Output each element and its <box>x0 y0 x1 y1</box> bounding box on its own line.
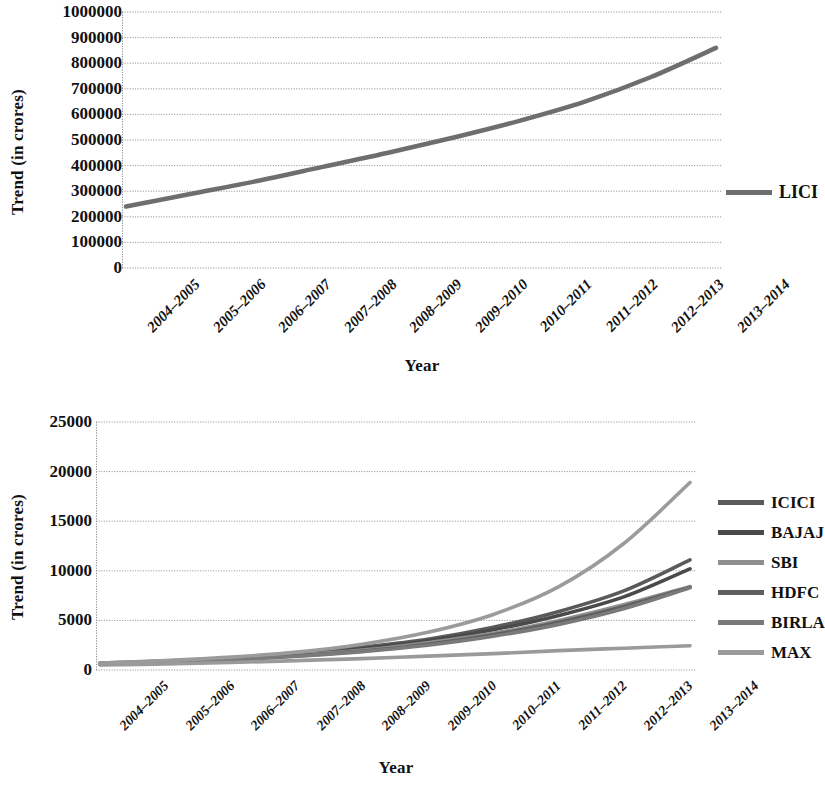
legend-label: BIRLA <box>771 614 825 631</box>
chart1-y-axis-title: Trend (in crores) <box>8 55 28 215</box>
legend-item-icici[interactable]: ICICI <box>718 495 815 509</box>
legend-item-sbi[interactable]: SBI <box>718 555 798 569</box>
y-tick-label: 700000 <box>30 79 122 99</box>
x-tick-label: 2007–2008 <box>340 276 400 336</box>
x-tick-label: 2012–2013 <box>668 276 728 336</box>
x-tick-label: 2004–2005 <box>116 678 172 734</box>
legend-item-bajaj[interactable]: BAJAJ <box>718 525 824 539</box>
y-tick-label: 25000 <box>30 412 92 432</box>
legend-label: BAJAJ <box>771 524 824 541</box>
chart1-y-tick-labels: 1000000900000800000700000600000500000400… <box>30 0 122 280</box>
x-tick-label: 2011–2012 <box>575 678 630 733</box>
chart2-plot-area <box>96 422 696 670</box>
chart2-legend: ICICIBAJAJSBIHDFCBIRLAMAX <box>718 495 823 685</box>
y-tick-label: 20000 <box>30 462 92 482</box>
legend-label: SBI <box>771 554 798 571</box>
legend-label: ICICI <box>771 494 815 511</box>
chart1-plot-area <box>122 12 722 268</box>
y-tick-label: 0 <box>30 660 92 680</box>
x-tick-label: 2008–2009 <box>406 276 466 336</box>
x-tick-label: 2009–2010 <box>472 276 532 336</box>
x-tick-label: 2010–2011 <box>510 678 565 733</box>
x-tick-label: 2005–2006 <box>182 678 238 734</box>
y-tick-label: 10000 <box>30 561 92 581</box>
series-line-sbi <box>100 483 690 664</box>
y-tick-label: 5000 <box>30 610 92 630</box>
y-tick-label: 400000 <box>30 156 122 176</box>
y-tick-label: 800000 <box>30 53 122 73</box>
x-tick-label: 2004–2005 <box>144 276 204 336</box>
y-tick-label: 600000 <box>30 104 122 124</box>
legend-item-birla[interactable]: BIRLA <box>718 615 825 629</box>
legend-label: HDFC <box>771 584 819 601</box>
chart1-x-tick-labels: 2004–20052005–20062006–20072007–20082008… <box>122 272 722 352</box>
chart2-y-tick-labels: 2500020000150001000050000 <box>30 400 92 670</box>
y-tick-label: 100000 <box>30 232 122 252</box>
y-tick-label: 15000 <box>30 511 92 531</box>
y-tick-label: 200000 <box>30 207 122 227</box>
x-tick-label: 2011–2012 <box>602 276 661 335</box>
y-tick-label: 1000000 <box>30 2 122 22</box>
legend-swatch-icon <box>718 590 764 595</box>
y-tick-label: 0 <box>30 258 122 278</box>
chart2-y-axis-title: Trend (in crores) <box>8 460 28 620</box>
x-tick-label: 2006–2007 <box>275 276 335 336</box>
series-line-lici <box>126 48 716 207</box>
x-tick-label: 2006–2007 <box>248 678 304 734</box>
legend-label: MAX <box>771 644 812 661</box>
plot-svg <box>96 422 696 670</box>
legend-swatch-icon <box>726 190 772 195</box>
plot-svg <box>122 12 722 268</box>
x-tick-label: 2007–2008 <box>313 678 369 734</box>
legend-swatch-icon <box>718 560 764 565</box>
legend-item-max[interactable]: MAX <box>718 645 812 659</box>
x-tick-label: 2009–2010 <box>444 678 500 734</box>
chart2-x-axis-title: Year <box>296 758 496 778</box>
chart1-x-axis-title: Year <box>322 356 522 376</box>
private-insurers-trend-chart: Trend (in crores) 2500020000150001000050… <box>0 400 823 786</box>
legend-label: LICI <box>779 183 818 201</box>
legend-swatch-icon <box>718 500 764 505</box>
x-tick-label: 2008–2009 <box>379 678 435 734</box>
lici-trend-chart: Trend (in crores) 1000000900000800000700… <box>0 0 823 395</box>
legend-swatch-icon <box>718 620 764 625</box>
y-tick-label: 500000 <box>30 130 122 150</box>
x-tick-label: 2013–2014 <box>706 678 762 734</box>
legend-item-lici[interactable]: LICI <box>726 185 818 199</box>
legend-item-hdfc[interactable]: HDFC <box>718 585 819 599</box>
chart2-x-tick-labels: 2004–20052005–20062006–20072007–20082008… <box>96 674 696 754</box>
chart1-legend: LICI <box>726 185 823 215</box>
x-tick-label: 2005–2006 <box>209 276 269 336</box>
x-tick-label: 2013–2014 <box>734 276 794 336</box>
x-tick-label: 2012–2013 <box>641 678 697 734</box>
legend-swatch-icon <box>718 650 764 655</box>
x-tick-label: 2010–2011 <box>537 276 596 335</box>
legend-swatch-icon <box>718 530 764 535</box>
y-tick-label: 300000 <box>30 181 122 201</box>
y-tick-label: 900000 <box>30 28 122 48</box>
